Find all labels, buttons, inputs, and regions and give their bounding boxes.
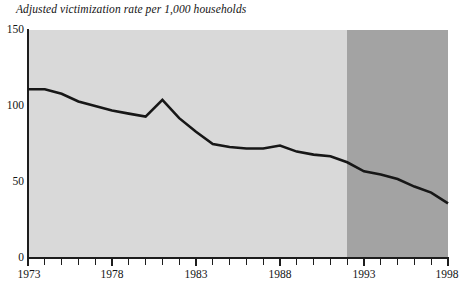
x-axis-label-1978: 1978 [101, 268, 124, 280]
plot-area [28, 30, 448, 258]
x-axis-tick-1994 [380, 259, 381, 265]
y-axis-label-100: 100 [0, 99, 24, 111]
x-axis-tick-1974 [44, 259, 45, 265]
x-axis-tick-1989 [296, 259, 297, 265]
x-axis-tick-1980 [145, 259, 146, 265]
y-axis-label-50: 50 [0, 175, 24, 187]
x-axis-tick-1993 [363, 259, 364, 266]
x-axis-tick-1976 [78, 259, 79, 265]
x-axis-tick-1998 [447, 259, 448, 266]
x-axis-tick-1981 [162, 259, 163, 265]
y-axis-line [27, 29, 29, 259]
x-axis-tick-1986 [246, 259, 247, 265]
post-redesign-band [347, 30, 448, 258]
x-axis-tick-1982 [179, 259, 180, 265]
x-axis-tick-1987 [263, 259, 264, 265]
x-axis-tick-1979 [128, 259, 129, 265]
x-axis-tick-1996 [414, 259, 415, 265]
y-axis-label-0: 0 [0, 251, 24, 263]
x-axis-tick-1985 [229, 259, 230, 265]
x-axis-tick-1978 [111, 259, 112, 266]
x-axis-tick-1975 [61, 259, 62, 265]
x-axis-tick-1997 [431, 259, 432, 265]
y-axis-label-150: 150 [0, 23, 24, 35]
x-axis-tick-1973 [27, 259, 28, 266]
x-axis-label-1988: 1988 [269, 268, 292, 280]
x-axis-label-1998: 1998 [436, 268, 459, 280]
pre-redesign-band [28, 30, 347, 258]
x-axis-label-1983: 1983 [185, 268, 208, 280]
chart-container: Adjusted victimization rate per 1,000 ho… [0, 0, 464, 294]
x-axis-line [27, 257, 449, 259]
x-axis-label-1993: 1993 [353, 268, 376, 280]
x-axis-tick-1992 [347, 259, 348, 265]
x-axis-tick-1977 [95, 259, 96, 265]
x-axis-tick-1988 [279, 259, 280, 266]
x-axis-tick-1984 [212, 259, 213, 265]
x-axis-tick-1983 [195, 259, 196, 266]
x-axis-tick-1990 [313, 259, 314, 265]
x-axis-tick-1991 [330, 259, 331, 265]
chart-title: Adjusted victimization rate per 1,000 ho… [16, 2, 246, 16]
x-axis-tick-1995 [397, 259, 398, 265]
x-axis-label-1973: 1973 [17, 268, 40, 280]
